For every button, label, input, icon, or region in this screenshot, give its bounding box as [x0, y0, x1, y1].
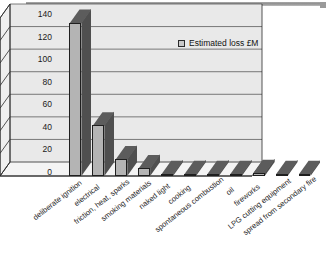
plot-left-wall	[0, 4, 10, 176]
bar-2[interactable]	[115, 159, 127, 176]
bar-front-face	[69, 23, 81, 176]
bar-front-face	[161, 174, 173, 176]
bar-front-face	[92, 125, 104, 176]
y-tick-label: 100	[26, 55, 52, 63]
bar-0[interactable]	[69, 23, 81, 176]
bar-front-face	[253, 173, 265, 176]
bar-5[interactable]	[184, 174, 196, 176]
y-tick-label: 40	[26, 123, 52, 131]
bar-top-face	[184, 160, 206, 175]
bar-top-face	[276, 160, 298, 175]
y-tick-label: 0	[26, 168, 52, 176]
bar-4[interactable]	[161, 174, 173, 176]
bar-front-face	[115, 159, 127, 176]
bar-7[interactable]	[230, 174, 242, 176]
y-tick-label: 120	[26, 33, 52, 41]
y-tick-label: 60	[26, 100, 52, 108]
chart-legend: Estimated loss £M	[178, 38, 258, 48]
y-tick-label: 20	[26, 145, 52, 153]
y-tick-label: 80	[26, 78, 52, 86]
y-tick-label: 140	[26, 10, 52, 18]
bar-front-face	[230, 174, 242, 176]
bar-top-face	[207, 160, 229, 175]
bar-3[interactable]	[138, 168, 150, 176]
legend-label: Estimated loss £M	[189, 38, 258, 48]
bar-top-face	[161, 160, 183, 175]
bar-1[interactable]	[92, 125, 104, 176]
bar-side-face	[81, 9, 91, 176]
bar-top-face	[230, 160, 252, 175]
y-axis-tick-labels: 140 120 100 80 60 40 20 0	[22, 0, 52, 158]
bar-top-face	[299, 160, 321, 175]
bar-chart: 140 120 100 80 60 40 20 0 Estimated loss…	[0, 0, 332, 264]
bar-front-face	[184, 174, 196, 176]
bar-front-face	[138, 168, 150, 176]
bar-8[interactable]	[253, 173, 265, 176]
legend-swatch-icon	[178, 40, 185, 47]
